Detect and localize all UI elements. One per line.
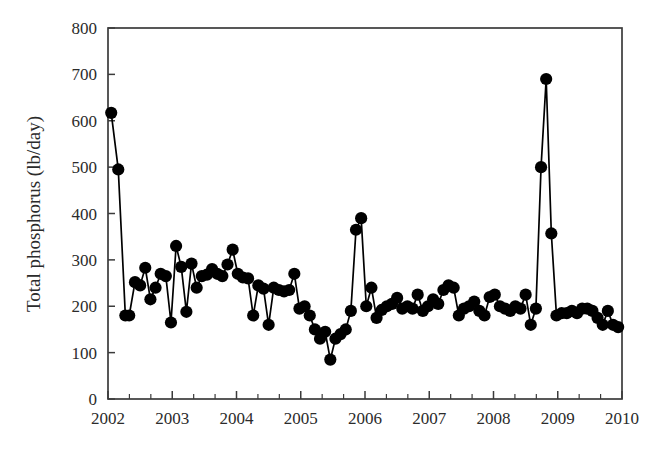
data-point: [324, 353, 336, 365]
y-tick-label-700: 700: [72, 65, 98, 84]
data-point: [304, 309, 316, 321]
data-point: [602, 305, 614, 317]
data-point: [160, 270, 172, 282]
data-point: [340, 323, 352, 335]
x-tick-label-2009: 2009: [541, 409, 575, 428]
data-point: [530, 302, 542, 314]
x-tick-label-2003: 2003: [155, 409, 189, 428]
data-point: [227, 244, 239, 256]
y-axis-title: Total phosphorus (lb/day): [23, 116, 45, 312]
data-point: [432, 298, 444, 310]
data-point: [448, 282, 460, 294]
data-point: [345, 305, 357, 317]
data-point: [545, 227, 557, 239]
series-total-phosphorus: [105, 73, 624, 366]
data-point: [247, 309, 259, 321]
data-point: [242, 272, 254, 284]
phosphorus-time-series-chart: 0100200300400500600700800 20022003200420…: [0, 0, 657, 457]
y-axis-title-text: Total phosphorus (lb/day): [23, 116, 45, 312]
y-axis-ticks: [108, 28, 115, 399]
y-axis-tick-labels: 0100200300400500600700800: [72, 19, 98, 409]
data-point: [360, 300, 372, 312]
y-tick-label-200: 200: [72, 297, 98, 316]
x-axis-tick-labels: 200220032004200520062007200820092010: [91, 409, 639, 428]
y-tick-label-100: 100: [72, 344, 98, 363]
x-tick-label-2010: 2010: [605, 409, 639, 428]
data-point: [391, 292, 403, 304]
x-tick-label-2006: 2006: [348, 409, 382, 428]
x-tick-label-2004: 2004: [220, 409, 255, 428]
data-point: [123, 309, 135, 321]
data-point: [185, 257, 197, 269]
data-point: [355, 212, 367, 224]
y-tick-label-800: 800: [72, 19, 98, 38]
x-tick-label-2007: 2007: [412, 409, 447, 428]
x-axis-ticks: [108, 391, 622, 399]
x-tick-label-2005: 2005: [284, 409, 318, 428]
data-point: [350, 224, 362, 236]
data-point: [478, 309, 490, 321]
data-point: [165, 316, 177, 328]
y-tick-label-0: 0: [89, 390, 98, 409]
y-tick-label-500: 500: [72, 158, 98, 177]
data-point: [221, 258, 233, 270]
data-point: [525, 319, 537, 331]
data-point: [612, 321, 624, 333]
data-point: [520, 289, 532, 301]
data-point: [288, 268, 300, 280]
data-point: [365, 282, 377, 294]
data-point: [144, 293, 156, 305]
y-tick-label-300: 300: [72, 251, 98, 270]
chart-figure: 0100200300400500600700800 20022003200420…: [0, 0, 657, 457]
data-point: [170, 240, 182, 252]
y-tick-label-400: 400: [72, 205, 98, 224]
data-point: [263, 319, 275, 331]
data-point: [406, 302, 418, 314]
data-point: [134, 279, 146, 291]
data-point: [139, 262, 151, 274]
x-tick-label-2008: 2008: [477, 409, 511, 428]
data-point: [535, 161, 547, 173]
series-markers: [105, 73, 624, 366]
data-point: [112, 163, 124, 175]
data-point: [180, 306, 192, 318]
data-point: [216, 270, 228, 282]
data-point: [319, 326, 331, 338]
data-point: [105, 107, 117, 119]
data-point: [412, 289, 424, 301]
x-tick-label-2002: 2002: [91, 409, 125, 428]
data-point: [540, 73, 552, 85]
data-point: [489, 289, 501, 301]
y-tick-label-600: 600: [72, 112, 98, 131]
data-point: [283, 284, 295, 296]
data-point: [514, 302, 526, 314]
data-point: [191, 282, 203, 294]
data-point: [149, 282, 161, 294]
